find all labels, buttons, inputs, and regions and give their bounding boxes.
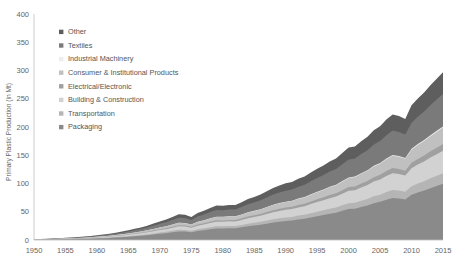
legend-item-label: Electrical/Electronic	[68, 82, 132, 91]
legend-item-label: Textiles	[68, 41, 93, 50]
x-tick-label: 1965	[120, 246, 137, 255]
x-tick-label: 1985	[246, 246, 263, 255]
legend-item-label: Transportation	[68, 109, 115, 118]
legend-swatch-icon	[59, 30, 63, 34]
legend-item-label: Other	[68, 27, 87, 36]
legend-item-label: Packaging	[68, 122, 102, 131]
stacked-area-chart: 050100150200250300350400 195019551960196…	[0, 0, 469, 268]
legend-item-label: Building & Construction	[68, 95, 144, 104]
y-tick-label: 350	[16, 38, 29, 47]
x-tick-label: 2000	[340, 246, 357, 255]
y-tick-label: 300	[16, 66, 29, 75]
x-tick-label: 1950	[26, 246, 43, 255]
x-tick-label: 2005	[372, 246, 389, 255]
legend-swatch-icon	[59, 125, 63, 129]
y-tick-label: 50	[21, 207, 29, 216]
y-tick-label: 150	[16, 151, 29, 160]
x-tick-label: 1970	[152, 246, 169, 255]
y-tick-label: 0	[25, 236, 29, 245]
y-tick-label: 250	[16, 94, 29, 103]
legend-item-label: Consumer & Institutional Products	[68, 68, 179, 77]
x-tick-label: 2015	[435, 246, 452, 255]
x-tick-label: 1960	[89, 246, 106, 255]
legend-swatch-icon	[59, 71, 63, 75]
chart-container: 050100150200250300350400 195019551960196…	[0, 0, 469, 268]
x-tick-label: 1990	[277, 246, 294, 255]
x-tick-label: 1955	[57, 246, 74, 255]
x-tick-label: 2010	[403, 246, 420, 255]
legend-swatch-icon	[59, 43, 63, 47]
y-tick-label: 200	[16, 123, 29, 132]
legend-swatch-icon	[59, 111, 63, 115]
y-axis-title: Primary Plastic Production (in Mt)	[5, 83, 13, 181]
legend-swatch-icon	[59, 57, 63, 61]
x-tick-label: 1980	[214, 246, 231, 255]
y-tick-label: 400	[16, 10, 29, 19]
x-tick-label: 1995	[309, 246, 326, 255]
y-tick-label: 100	[16, 179, 29, 188]
x-tick-label: 1975	[183, 246, 200, 255]
legend-item-label: Industrial Machinery	[68, 54, 134, 63]
legend-swatch-icon	[59, 84, 63, 88]
legend-swatch-icon	[59, 98, 63, 102]
